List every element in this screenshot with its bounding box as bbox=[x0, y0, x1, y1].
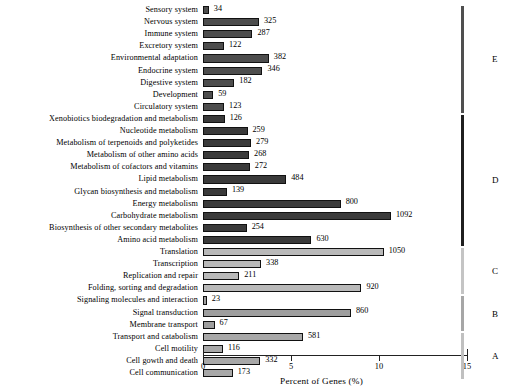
bar bbox=[203, 30, 252, 38]
bar bbox=[203, 175, 286, 183]
bar-container bbox=[203, 260, 261, 268]
bar-value-label: 338 bbox=[261, 257, 278, 269]
category-label: Nervous system bbox=[144, 16, 198, 28]
bar bbox=[203, 151, 249, 159]
x-axis-tick bbox=[379, 356, 380, 361]
bar-row: Lipid metabolism484 bbox=[0, 173, 528, 185]
bar-row: Folding, sorting and degradation920 bbox=[0, 282, 528, 294]
bar-container bbox=[203, 30, 252, 38]
category-label: Energy metabolism bbox=[133, 198, 198, 210]
x-axis-tick-label: 5 bbox=[289, 362, 293, 371]
group-bracket-a bbox=[461, 333, 464, 379]
x-axis-tick bbox=[203, 356, 204, 361]
bar bbox=[203, 103, 224, 111]
x-axis-line bbox=[203, 355, 468, 356]
bar-row: Excretory system122 bbox=[0, 40, 528, 52]
category-label: Sensory system bbox=[145, 4, 198, 16]
bar-value-label: 1092 bbox=[391, 209, 412, 221]
bar-container bbox=[203, 357, 260, 365]
bar bbox=[203, 200, 341, 208]
category-label: Circulatory system bbox=[134, 101, 198, 113]
category-label: Transcription bbox=[153, 258, 198, 270]
bar bbox=[203, 284, 361, 292]
bar bbox=[203, 54, 269, 62]
bar-value-label: 279 bbox=[251, 136, 268, 148]
bar-value-label: 123 bbox=[224, 100, 241, 112]
bar bbox=[203, 42, 224, 50]
bar-container bbox=[203, 236, 311, 244]
x-axis-tick-label: 10 bbox=[375, 362, 383, 371]
bar-container bbox=[203, 212, 391, 220]
category-label: Metabolism of cofactors and vitamins bbox=[70, 161, 198, 173]
x-axis-right-cap bbox=[467, 349, 468, 356]
bar bbox=[203, 309, 351, 317]
bar-value-label: 484 bbox=[286, 172, 303, 184]
x-axis-tick-label: 0 bbox=[201, 362, 205, 371]
bar bbox=[203, 321, 215, 329]
bar bbox=[203, 91, 213, 99]
bar-value-label: 920 bbox=[361, 281, 378, 293]
bar-value-label: 67 bbox=[215, 317, 228, 329]
bar-row: Signaling molecules and interaction23 bbox=[0, 294, 528, 306]
bar-row: Digestive system182 bbox=[0, 77, 528, 89]
category-label: Digestive system bbox=[140, 77, 198, 89]
category-label: Metabolism of terpenoids and polyketides bbox=[56, 137, 198, 149]
bar-container bbox=[203, 67, 262, 75]
group-bracket-c bbox=[461, 248, 464, 294]
bar-value-label: 1050 bbox=[384, 245, 405, 257]
bar bbox=[203, 18, 259, 26]
group-bracket-e bbox=[461, 6, 464, 113]
group-bracket-label: A bbox=[492, 351, 499, 361]
bar-container bbox=[203, 79, 234, 87]
bar-row: Amino acid metabolism630 bbox=[0, 234, 528, 246]
category-label: Replication and repair bbox=[123, 270, 198, 282]
bar-container bbox=[203, 309, 351, 317]
x-axis-title-text: Percent of Genes (%) bbox=[165, 376, 363, 386]
bar-value-label: 581 bbox=[303, 330, 320, 342]
bar-value-label: 211 bbox=[239, 269, 256, 281]
bar-value-label: 116 bbox=[223, 342, 240, 354]
bar-value-label: 346 bbox=[262, 63, 279, 75]
bar-container bbox=[203, 91, 213, 99]
bar-container bbox=[203, 139, 251, 147]
kegg-pathway-bar-chart: Sensory system34Nervous system325Immune … bbox=[0, 0, 528, 392]
category-label: Endocrine system bbox=[138, 65, 198, 77]
group-bracket-label: B bbox=[492, 309, 498, 319]
category-label: Excretory system bbox=[139, 40, 198, 52]
bar-container bbox=[203, 103, 224, 111]
x-axis-title: Percent of Genes (%) bbox=[0, 376, 528, 386]
bar-container bbox=[203, 54, 269, 62]
bar-container bbox=[203, 321, 215, 329]
category-label: Signal transduction bbox=[133, 307, 198, 319]
bar-container bbox=[203, 115, 225, 123]
bar bbox=[203, 272, 239, 280]
group-bracket-d bbox=[461, 115, 464, 246]
bar-row: Carbohydrate metabolism1092 bbox=[0, 210, 528, 222]
category-label: Folding, sorting and degradation bbox=[88, 282, 198, 294]
bar bbox=[203, 248, 384, 256]
bar bbox=[203, 333, 303, 341]
bar-container bbox=[203, 284, 361, 292]
bar-row: Circulatory system123 bbox=[0, 101, 528, 113]
bar bbox=[203, 127, 248, 135]
bar bbox=[203, 163, 250, 171]
bar-value-label: 34 bbox=[209, 3, 222, 15]
group-bracket-label: C bbox=[492, 266, 498, 276]
bar-value-label: 382 bbox=[269, 51, 286, 63]
category-label: Development bbox=[153, 89, 198, 101]
group-bracket-label: D bbox=[492, 175, 499, 185]
bar-value-label: 59 bbox=[213, 88, 226, 100]
category-label: Environmental adaptation bbox=[111, 52, 198, 64]
bar-value-label: 259 bbox=[248, 124, 265, 136]
category-label: Lipid metabolism bbox=[138, 173, 198, 185]
bar-container bbox=[203, 151, 249, 159]
bar-container bbox=[203, 18, 259, 26]
bar-row: Immune system287 bbox=[0, 28, 528, 40]
bar-value-label: 182 bbox=[234, 75, 251, 87]
bar-value-label: 122 bbox=[224, 39, 241, 51]
bar-container bbox=[203, 224, 247, 232]
bar-container bbox=[203, 163, 250, 171]
bar-row: Transport and catabolism581 bbox=[0, 331, 528, 343]
bar-value-label: 325 bbox=[259, 15, 276, 27]
bar-row: Energy metabolism800 bbox=[0, 198, 528, 210]
